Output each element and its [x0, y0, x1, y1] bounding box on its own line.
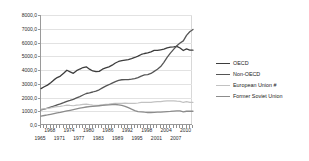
line-chart: 0,01000,02000,03000,04000,05000,06000,07…: [0, 0, 309, 161]
legend-item-label: European Union #: [233, 82, 276, 88]
x-axis-tick-label: 1977: [73, 135, 84, 141]
x-axis-tick-label: 1989: [112, 135, 123, 141]
x-axis-tick-label: 2010: [180, 127, 191, 133]
legend-item[interactable]: Former Soviet Union: [216, 91, 309, 101]
x-axis-tick-label: 1971: [54, 135, 65, 141]
y-axis-tick-label: 1000,0: [22, 109, 37, 114]
x-axis-tick-label: 2007: [170, 135, 181, 141]
legend-item[interactable]: Non-OECD: [216, 69, 309, 79]
legend-item-label: Non-OECD: [233, 71, 260, 77]
y-axis-tick-label: 5000,0: [22, 54, 37, 59]
legend-item[interactable]: OECD: [216, 58, 309, 68]
legend-item-label: OECD: [233, 60, 249, 66]
x-axis-tick-label: 1983: [93, 135, 104, 141]
x-axis-tick-label: 1986: [102, 127, 113, 133]
x-axis-tick-label: 1980: [83, 127, 94, 133]
legend-swatch-icon: [216, 63, 230, 64]
x-axis-tick-label: 2001: [151, 135, 162, 141]
y-axis: 0,01000,02000,03000,04000,05000,06000,07…: [0, 0, 40, 125]
y-axis-tick-label: 7000,0: [22, 26, 37, 31]
y-axis-tick-label: 2000,0: [22, 95, 37, 100]
x-axis-tick-label: 1992: [122, 127, 133, 133]
legend-item-label: Former Soviet Union: [233, 93, 282, 99]
x-axis-tick-label: 1995: [131, 135, 142, 141]
x-axis-tick-label: 1965: [34, 135, 45, 141]
chart-legend: OECDNon-OECDEuropean Union #Former Sovie…: [216, 58, 309, 102]
legend-item[interactable]: European Union #: [216, 80, 309, 90]
series-lines: [41, 15, 193, 125]
y-axis-tick-label: 8000,0: [22, 13, 37, 18]
y-axis-tick-label: 4000,0: [22, 68, 37, 73]
y-axis-tick-label: 3000,0: [22, 81, 37, 86]
x-axis-labels: 1968197419801986199219982004201019651971…: [0, 127, 309, 149]
series-line: [41, 29, 193, 109]
legend-swatch-icon: [216, 74, 230, 75]
plot-area: [40, 15, 192, 125]
x-axis-tick-label: 1968: [44, 127, 55, 133]
y-axis-tick-label: 6000,0: [22, 40, 37, 45]
x-axis-tick-label: 1998: [141, 127, 152, 133]
x-axis-tick-label: 2004: [161, 127, 172, 133]
legend-swatch-icon: [216, 96, 230, 97]
x-axis-tick-label: 1974: [64, 127, 75, 133]
legend-swatch-icon: [216, 85, 230, 86]
